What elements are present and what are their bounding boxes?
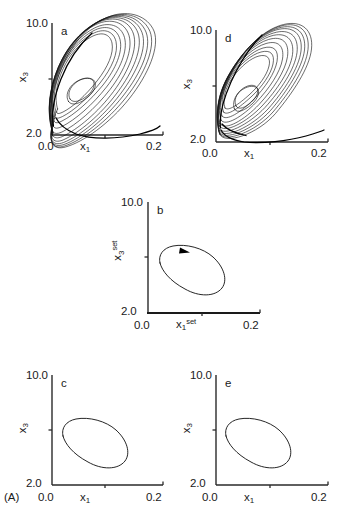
panel-a-letter: a (61, 25, 67, 37)
panel-e-ytick-bottom: 2.0 (190, 477, 205, 489)
panel-e: 10.0 2.0 0.0 0.2 e x3 x1 (178, 355, 357, 521)
panel-c-limit-cycle (63, 418, 128, 468)
panel-b-limit-cycle (160, 245, 225, 295)
panel-e-x-axis-label: x1 (244, 491, 254, 505)
panel-a-xtick-right: 0.2 (146, 140, 161, 152)
panel-e-y-axis-label: x3 (180, 417, 194, 439)
panel-d-ytick-bottom: 2.0 (190, 133, 205, 145)
figure-part-tag: (A) (4, 491, 19, 503)
panel-b-y-axis-label: x3set (110, 231, 125, 271)
panel-c-x-axis-label: x1 (80, 491, 90, 505)
panel-b-x-axis-label: x1set (176, 317, 196, 332)
panel-a: 10.0 2.0 0.0 0.2 a x3 x1 (0, 0, 178, 175)
panel-c-ytick-top: 10.0 (26, 369, 48, 381)
panel-c-letter: c (61, 377, 67, 389)
panel-d-xtick-right: 0.2 (311, 147, 326, 159)
panel-d: 10.0 2.0 0.0 0.2 d x3 x1 (178, 0, 357, 175)
panel-b-letter: b (157, 204, 163, 216)
panel-b-plot (100, 185, 300, 345)
direction-arrow-icon (179, 248, 190, 254)
panel-b-ytick-bottom: 2.0 (121, 305, 136, 317)
panel-e-ytick-top: 10.0 (190, 369, 212, 381)
panel-b-xtick-left: 0.0 (134, 319, 149, 331)
panel-a-xtick-left: 0.0 (38, 140, 53, 152)
panel-a-ytick-top: 10.0 (26, 17, 48, 29)
panel-c-y-axis-label: x3 (16, 417, 30, 439)
panel-c: 10.0 2.0 0.0 0.2 c x3 x1 (A) (0, 355, 178, 521)
panel-e-limit-cycle (226, 418, 291, 468)
panel-a-y-axis-label: x3 (16, 66, 30, 88)
panel-d-attractor-curves (217, 23, 324, 142)
panel-d-xtick-left: 0.0 (202, 147, 217, 159)
panel-e-xtick-left: 0.0 (202, 491, 217, 503)
panel-e-letter: e (225, 377, 231, 389)
panel-c-xtick-left: 0.0 (38, 491, 53, 503)
panel-c-xtick-right: 0.2 (146, 491, 161, 503)
panel-c-ytick-bottom: 2.0 (26, 477, 41, 489)
panel-b-xtick-right: 0.2 (243, 319, 258, 331)
panel-e-xtick-right: 0.2 (311, 491, 326, 503)
panel-d-y-axis-label: x3 (180, 73, 194, 95)
panel-b: 10.0 2.0 0.0 0.2 b x3set x1set (100, 185, 300, 345)
panel-a-ytick-bottom: 2.0 (26, 127, 41, 139)
panel-d-x-axis-label: x1 (244, 147, 254, 161)
panel-d-letter: d (225, 32, 231, 44)
panel-b-ytick-top: 10.0 (121, 196, 143, 208)
panel-a-x-axis-label: x1 (80, 140, 90, 154)
panel-d-ytick-top: 10.0 (190, 24, 212, 36)
figure-container: 10.0 2.0 0.0 0.2 a x3 x1 (0, 0, 357, 521)
